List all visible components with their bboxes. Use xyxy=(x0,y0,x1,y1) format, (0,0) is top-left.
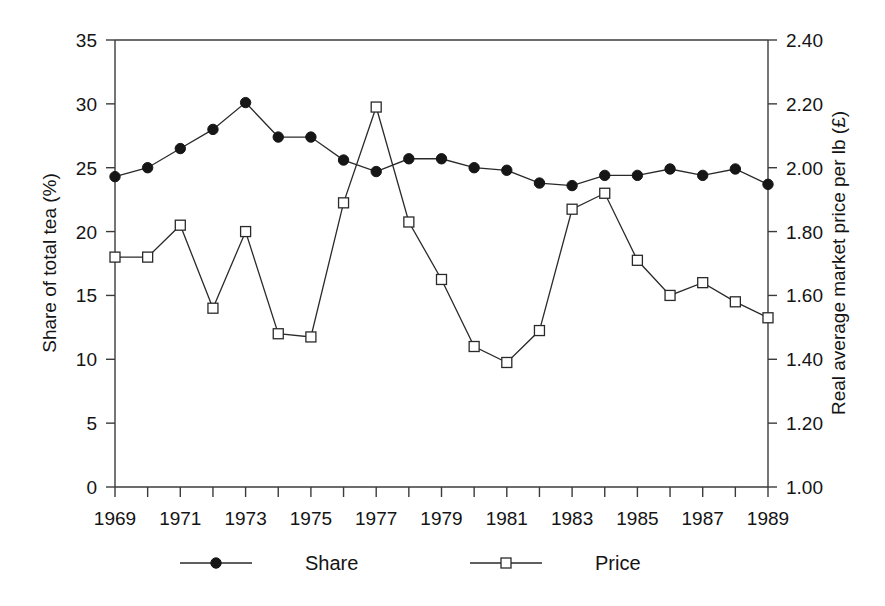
legend-item-share: Share xyxy=(180,552,358,574)
data-point-share-1976 xyxy=(338,155,348,165)
legend-item-price: Price xyxy=(470,552,641,574)
y-axis-left-labels: 05101520253035 xyxy=(76,30,97,498)
x-tick-label: 1979 xyxy=(420,508,462,529)
y-axis-left-ticks xyxy=(106,40,115,487)
y-tick-label-left: 20 xyxy=(76,222,97,243)
data-point-share-1985 xyxy=(632,170,642,180)
data-point-share-1973 xyxy=(240,97,250,107)
legend-label-price: Price xyxy=(595,552,641,574)
data-point-share-1979 xyxy=(436,154,446,164)
data-point-share-1980 xyxy=(469,163,479,173)
data-point-price-1969 xyxy=(110,252,120,262)
data-point-price-1971 xyxy=(175,220,185,230)
data-point-share-1974 xyxy=(273,132,283,142)
data-point-share-1972 xyxy=(208,124,218,134)
x-tick-label: 1981 xyxy=(486,508,528,529)
y-tick-label-right: 1.00 xyxy=(786,477,823,498)
plot-background xyxy=(115,40,768,487)
data-point-price-1989 xyxy=(763,313,773,323)
y-tick-label-right: 2.00 xyxy=(786,158,823,179)
data-point-price-1982 xyxy=(534,326,544,336)
y-tick-label-left: 25 xyxy=(76,158,97,179)
data-point-price-1981 xyxy=(502,357,512,367)
x-tick-label: 1969 xyxy=(94,508,136,529)
y-axis-right-labels: 1.001.201.401.601.802.002.202.40 xyxy=(786,30,823,498)
data-point-share-1987 xyxy=(698,170,708,180)
data-point-price-1977 xyxy=(371,102,381,112)
data-point-price-1978 xyxy=(404,217,414,227)
data-point-price-1986 xyxy=(665,290,675,300)
legend-label-share: Share xyxy=(305,552,358,574)
y-tick-label-left: 35 xyxy=(76,30,97,51)
y-tick-label-left: 10 xyxy=(76,349,97,370)
line-chart: 05101520253035 1.001.201.401.601.802.002… xyxy=(0,0,885,606)
data-point-price-1974 xyxy=(273,329,283,339)
x-tick-label: 1971 xyxy=(159,508,201,529)
data-point-share-1983 xyxy=(567,180,577,190)
data-point-share-1981 xyxy=(502,165,512,175)
data-point-share-1977 xyxy=(371,166,381,176)
x-tick-label: 1985 xyxy=(616,508,658,529)
y-tick-label-left: 30 xyxy=(76,94,97,115)
data-point-price-1988 xyxy=(730,297,740,307)
y-tick-label-right: 2.40 xyxy=(786,30,823,51)
chart-legend: SharePrice xyxy=(180,552,641,574)
data-point-share-1978 xyxy=(404,154,414,164)
data-point-share-1988 xyxy=(730,164,740,174)
x-tick-label: 1989 xyxy=(747,508,789,529)
data-point-price-1985 xyxy=(632,255,642,265)
data-point-price-1973 xyxy=(241,227,251,237)
y-axis-right-ticks xyxy=(768,40,777,487)
data-point-share-1982 xyxy=(534,178,544,188)
data-point-share-1969 xyxy=(110,171,120,181)
x-tick-label: 1977 xyxy=(355,508,397,529)
data-point-price-1983 xyxy=(567,204,577,214)
y-tick-label-right: 1.40 xyxy=(786,349,823,370)
y-tick-label-left: 5 xyxy=(86,413,97,434)
data-point-share-1989 xyxy=(763,179,773,189)
x-tick-label: 1973 xyxy=(224,508,266,529)
y-tick-label-right: 1.60 xyxy=(786,285,823,306)
y-tick-label-left: 0 xyxy=(86,477,97,498)
data-point-price-1976 xyxy=(339,198,349,208)
y-tick-label-right: 2.20 xyxy=(786,94,823,115)
x-tick-label: 1983 xyxy=(551,508,593,529)
data-point-share-1970 xyxy=(142,163,152,173)
data-point-share-1971 xyxy=(175,143,185,153)
y-axis-right-title: Real average market price per lb (£) xyxy=(828,111,849,415)
legend-marker-price xyxy=(501,558,511,568)
legend-marker-share xyxy=(211,558,221,568)
data-point-price-1980 xyxy=(469,342,479,352)
data-point-price-1975 xyxy=(306,332,316,342)
y-tick-label-right: 1.20 xyxy=(786,413,823,434)
data-point-price-1984 xyxy=(600,188,610,198)
chart-figure: 05101520253035 1.001.201.401.601.802.002… xyxy=(0,0,885,606)
y-axis-left-title: Share of total tea (%) xyxy=(39,173,60,353)
data-point-price-1987 xyxy=(698,278,708,288)
data-point-price-1972 xyxy=(208,303,218,313)
data-point-share-1975 xyxy=(306,132,316,142)
x-axis-ticks xyxy=(115,487,768,497)
data-point-price-1979 xyxy=(437,274,447,284)
y-tick-label-right: 1.80 xyxy=(786,222,823,243)
y-tick-label-left: 15 xyxy=(76,285,97,306)
x-tick-label: 1975 xyxy=(290,508,332,529)
x-axis-labels: 1969197119731975197719791981198319851987… xyxy=(94,508,789,529)
x-tick-label: 1987 xyxy=(682,508,724,529)
data-point-share-1984 xyxy=(600,170,610,180)
data-point-price-1970 xyxy=(143,252,153,262)
data-point-share-1986 xyxy=(665,164,675,174)
